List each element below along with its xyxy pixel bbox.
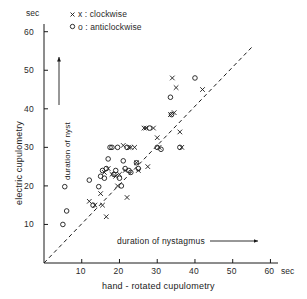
data-point-anticlockwise bbox=[193, 76, 198, 81]
x-tick-label: 20 bbox=[113, 266, 123, 276]
data-point-anticlockwise bbox=[62, 184, 67, 189]
data-point-anticlockwise bbox=[87, 178, 92, 183]
x-axis-unit: sec bbox=[281, 266, 294, 276]
data-point-clockwise bbox=[174, 85, 179, 90]
data-point-clockwise bbox=[87, 199, 92, 204]
data-point-anticlockwise bbox=[113, 168, 118, 173]
data-point-clockwise bbox=[155, 135, 160, 140]
data-point-anticlockwise bbox=[61, 222, 66, 227]
data-point-anticlockwise bbox=[64, 209, 69, 214]
y-inner-annotation-label: duration of nyst bbox=[63, 122, 72, 180]
data-point-clockwise bbox=[200, 87, 205, 92]
legend-item-clockwise: x : clockwise bbox=[69, 9, 127, 19]
data-point-anticlockwise bbox=[121, 159, 126, 164]
x-tick-label: 30 bbox=[151, 266, 161, 276]
data-point-anticlockwise bbox=[115, 145, 120, 150]
x-tick-label: 40 bbox=[189, 266, 199, 276]
data-point-clockwise bbox=[98, 191, 103, 196]
x-tick-label: 10 bbox=[76, 266, 86, 276]
x-inner-annotation-label: duration of nystagmus bbox=[117, 236, 205, 246]
y-tick-label: 60 bbox=[24, 27, 34, 37]
axis-lines bbox=[44, 24, 278, 263]
x-axis-title: hand - rotated cupulometry bbox=[102, 281, 215, 291]
identity-reference-line bbox=[44, 47, 252, 263]
data-point-anticlockwise bbox=[119, 184, 124, 189]
data-point-anticlockwise bbox=[168, 95, 173, 100]
y-tick-label: 30 bbox=[24, 142, 34, 152]
data-point-clockwise bbox=[125, 195, 130, 200]
legend-item-anticlockwise: o : anticlockwise bbox=[69, 22, 142, 32]
tick-marks bbox=[44, 32, 270, 263]
data-point-clockwise bbox=[132, 145, 137, 150]
y-tick-label: 40 bbox=[24, 104, 34, 114]
data-point-anticlockwise bbox=[147, 126, 152, 131]
data-point-anticlockwise bbox=[106, 157, 111, 162]
data-point-clockwise bbox=[170, 76, 175, 81]
y-tick-label: 10 bbox=[24, 219, 34, 229]
scatter-chart-figure: sec sec x : clockwise o : anticlockwise … bbox=[0, 0, 307, 299]
series-anticlockwise-markers bbox=[61, 76, 198, 227]
data-point-clockwise bbox=[100, 203, 105, 208]
data-point-anticlockwise bbox=[96, 184, 101, 189]
data-point-clockwise bbox=[104, 214, 109, 219]
series-clockwise-markers bbox=[87, 76, 205, 219]
y-axis-title: electric cupulometry bbox=[14, 121, 24, 205]
data-point-anticlockwise bbox=[102, 176, 107, 181]
x-tick-label: 60 bbox=[264, 266, 274, 276]
x-tick-label: 50 bbox=[227, 266, 237, 276]
plot-canvas bbox=[0, 0, 307, 299]
y-tick-label: 20 bbox=[24, 181, 34, 191]
data-point-clockwise bbox=[178, 130, 183, 135]
y-axis-unit: sec bbox=[26, 8, 39, 18]
data-point-clockwise bbox=[145, 164, 150, 169]
y-tick-label: 50 bbox=[24, 65, 34, 75]
